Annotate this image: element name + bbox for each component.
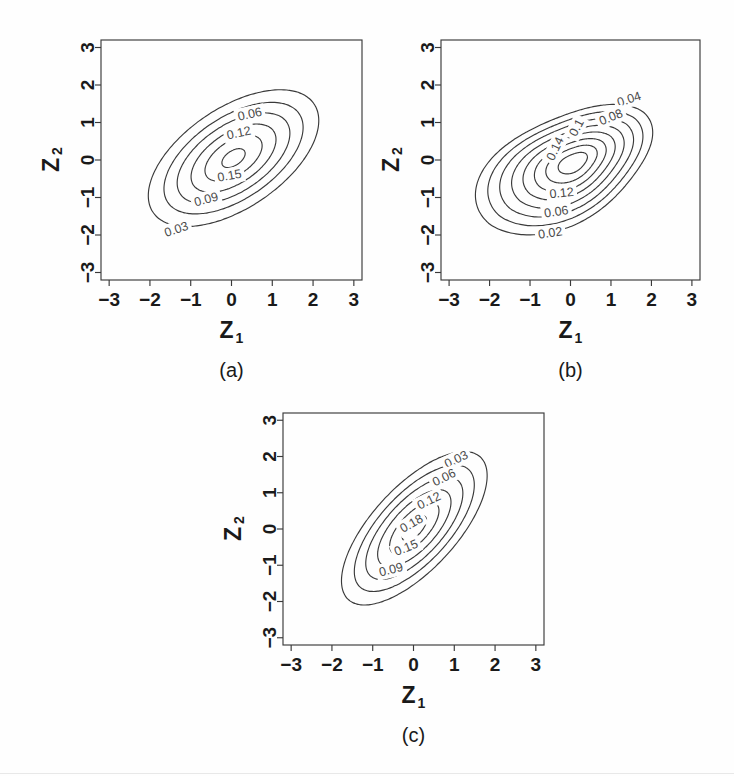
x-tick-label: −1 xyxy=(362,654,384,675)
y-axis-title: Z2 xyxy=(220,516,247,541)
scan-artifact-line xyxy=(0,773,734,774)
y-tick-label: 2 xyxy=(417,80,438,91)
y-tick-label: 1 xyxy=(259,487,280,498)
contour-panel-a: −3−2−10123−3−2−101230.030.090.060.120.15… xyxy=(14,18,374,390)
contour-plot-b: −3−2−10123−3−2−101230.020.040.060.080.10… xyxy=(354,18,714,390)
x-tick-label: 0 xyxy=(408,654,419,675)
contour-line-level-0.16 xyxy=(558,152,587,174)
contour-labels: 0.020.040.060.080.10.120.14 xyxy=(534,87,646,243)
x-tick-label: −2 xyxy=(321,654,343,675)
y-tick-label: −3 xyxy=(417,262,438,284)
y-tick-label: −2 xyxy=(77,224,98,246)
x-axis-title-subscript: 1 xyxy=(236,330,244,346)
x-tick-label: 0 xyxy=(226,289,237,310)
y-tick-label: 2 xyxy=(259,451,280,462)
y-tick-label: 0 xyxy=(417,155,438,166)
y-axis-title-subscript: 2 xyxy=(389,147,405,155)
y-axis-title-subscript: 2 xyxy=(49,147,65,155)
axis-ticks: −3−2−10123−3−2−10123 xyxy=(417,42,698,310)
contour-label: 0.12 xyxy=(225,124,252,143)
x-tick-label: −3 xyxy=(280,654,302,675)
y-tick-label: −3 xyxy=(77,262,98,284)
contour-label: 0.03 xyxy=(163,219,191,240)
contour-plot-a: −3−2−10123−3−2−101230.030.090.060.120.15… xyxy=(14,18,374,390)
figure-page: −3−2−10123−3−2−101230.030.090.060.120.15… xyxy=(0,0,734,776)
x-tick-label: −2 xyxy=(479,289,501,310)
y-axis-title-text: Z xyxy=(220,527,246,541)
contour-label: 0.09 xyxy=(378,560,405,579)
y-axis-title: Z2 xyxy=(378,147,405,172)
x-tick-label: 1 xyxy=(449,654,460,675)
contour-label: 0.06 xyxy=(236,105,263,124)
y-tick-label: 0 xyxy=(77,155,98,166)
x-axis-title-text: Z xyxy=(219,317,233,343)
y-axis-title: Z2 xyxy=(38,147,65,172)
x-tick-label: −2 xyxy=(139,289,161,310)
x-tick-label: 1 xyxy=(267,289,278,310)
x-axis-title: Z1 xyxy=(219,317,243,346)
y-tick-label: −1 xyxy=(77,186,98,208)
x-tick-label: 2 xyxy=(308,289,319,310)
contour-line-level-0.06 xyxy=(164,102,303,214)
contour-line-level-0.18 xyxy=(222,149,245,168)
x-tick-label: 3 xyxy=(531,654,542,675)
x-axis-title-subscript: 1 xyxy=(418,695,426,711)
x-tick-label: 2 xyxy=(646,289,657,310)
y-tick-label: −2 xyxy=(259,591,280,613)
y-tick-label: −3 xyxy=(259,627,280,649)
x-tick-label: −1 xyxy=(519,289,541,310)
y-tick-label: −2 xyxy=(417,224,438,246)
panel-caption: (c) xyxy=(402,724,425,746)
contour-label: 0.12 xyxy=(549,185,575,201)
contour-labels: 0.030.090.060.120.15 xyxy=(159,103,266,241)
contour-line-level-0.12 xyxy=(534,139,606,192)
y-tick-label: 1 xyxy=(417,117,438,128)
panel-caption: (b) xyxy=(558,359,582,381)
contour-plot-c: −3−2−10123−3−2−101230.030.060.090.120.15… xyxy=(196,392,556,764)
x-tick-label: 0 xyxy=(565,289,576,310)
x-tick-label: −3 xyxy=(98,289,120,310)
y-tick-label: −1 xyxy=(417,186,438,208)
plot-frame xyxy=(441,40,700,280)
y-axis-title-text: Z xyxy=(38,158,64,172)
contour-panel-b: −3−2−10123−3−2−101230.020.040.060.080.10… xyxy=(354,18,714,390)
contour-label: 0.09 xyxy=(193,189,220,209)
y-tick-label: 2 xyxy=(77,80,98,91)
panel-caption: (a) xyxy=(219,359,243,381)
x-tick-label: 2 xyxy=(490,654,501,675)
x-axis-title: Z1 xyxy=(401,682,425,711)
x-axis-title-subscript: 1 xyxy=(575,330,583,346)
x-tick-label: −1 xyxy=(180,289,202,310)
y-tick-label: −1 xyxy=(259,554,280,576)
x-tick-label: 1 xyxy=(606,289,617,310)
x-axis-title-text: Z xyxy=(401,682,415,708)
y-tick-label: 3 xyxy=(259,415,280,426)
x-tick-label: 3 xyxy=(687,289,698,310)
y-tick-label: 3 xyxy=(417,42,438,53)
y-tick-label: 1 xyxy=(77,117,98,128)
y-axis-title-text: Z xyxy=(378,158,404,172)
y-tick-label: 0 xyxy=(259,524,280,535)
x-axis-title-text: Z xyxy=(558,317,572,343)
contour-panel-c: −3−2−10123−3−2−101230.030.060.090.120.15… xyxy=(196,392,556,764)
x-tick-label: −3 xyxy=(438,289,460,310)
y-tick-label: 3 xyxy=(77,42,98,53)
y-axis-title-subscript: 2 xyxy=(231,516,247,524)
x-axis-title: Z1 xyxy=(558,317,582,346)
plot-frame xyxy=(101,40,362,280)
